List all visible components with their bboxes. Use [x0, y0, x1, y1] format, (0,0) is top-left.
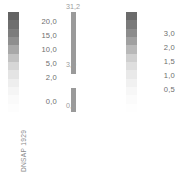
ramp-class-swatch — [126, 62, 137, 70]
ramp-class-swatch — [126, 37, 137, 45]
range-max-label-dnsap-1929: 31,2 — [66, 3, 80, 11]
ramp-class-swatch — [8, 12, 19, 20]
ramp-class-swatch — [8, 45, 19, 53]
ramp-class-swatch — [126, 29, 137, 37]
legend-group-dgss-2013: 3,02,01,51,00,5 DGSS 2013 6,1 1,0 0,1 — [95, 0, 189, 179]
ramp-class-swatch — [126, 12, 137, 20]
ramp-class-swatch — [126, 54, 137, 62]
ramp-class-swatch — [126, 45, 137, 53]
ramp-class-swatch — [8, 20, 19, 28]
ramp-class-swatch — [126, 104, 137, 112]
ramp-tick-label: 1,5 — [164, 58, 175, 66]
ramp-class-swatch — [8, 95, 19, 103]
tick-label-list-dgss-2013: 3,02,01,51,00,5 — [141, 12, 175, 112]
color-ramp-dnsap-1929 — [8, 12, 19, 112]
ramp-tick-label: 0,5 — [164, 86, 175, 94]
series-title-dnsap-1929: DNSAP 1929 — [20, 130, 27, 172]
ramp-tick-label: 2,0 — [46, 74, 57, 82]
ramp-class-swatch — [8, 37, 19, 45]
ramp-class-swatch — [126, 79, 137, 87]
ramp-class-swatch — [8, 87, 19, 95]
ramp-class-swatch — [126, 70, 137, 78]
ramp-tick-label: 20,0 — [41, 18, 57, 26]
color-ramp-dgss-2013 — [126, 12, 137, 112]
ramp-class-swatch — [8, 62, 19, 70]
ramp-tick-label: 2,0 — [164, 44, 175, 52]
range-mid-label-dnsap-1929: 3,0 — [66, 61, 76, 69]
ramp-tick-label: 5,0 — [46, 60, 57, 68]
ramp-class-swatch — [126, 95, 137, 103]
ramp-class-swatch — [126, 20, 137, 28]
ramp-class-swatch — [8, 70, 19, 78]
ramp-class-swatch — [8, 54, 19, 62]
ramp-tick-label: 1,0 — [164, 72, 175, 80]
map-legend-panel: 20,015,010,05,02,00,0 DNSAP 1929 31,2 3,… — [0, 0, 189, 179]
ramp-tick-label: 10,0 — [41, 46, 57, 54]
tick-label-list-dnsap-1929: 20,015,010,05,02,00,0 — [23, 12, 57, 112]
legend-group-dnsap-1929: 20,015,010,05,02,00,0 DNSAP 1929 31,2 3,… — [0, 0, 95, 179]
ramp-tick-label: 15,0 — [41, 32, 57, 40]
ramp-class-swatch — [8, 79, 19, 87]
range-min-label-dnsap-1929: 0,1 — [66, 102, 76, 110]
ramp-class-swatch — [8, 104, 19, 112]
ramp-tick-label: 0,0 — [46, 98, 57, 106]
ramp-tick-label: 3,0 — [164, 30, 175, 38]
ramp-class-swatch — [126, 87, 137, 95]
ramp-class-swatch — [8, 29, 19, 37]
